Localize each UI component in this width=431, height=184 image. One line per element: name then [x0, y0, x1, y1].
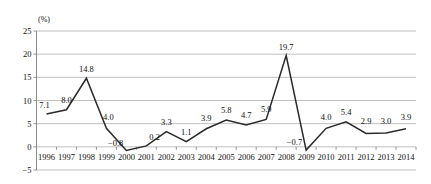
- x-tick-label: 1998: [78, 152, 95, 162]
- data-point-label: 5.4: [341, 107, 352, 117]
- x-tick-label: 1997: [58, 152, 75, 162]
- x-tick-label: 2013: [378, 152, 395, 162]
- y-axis-unit-label: (%): [38, 15, 50, 24]
- data-point-label: 5.9: [261, 104, 272, 114]
- x-tick-label: 1999: [98, 152, 115, 162]
- data-point-label: −0.7: [287, 137, 302, 147]
- data-point-label: 1.1: [181, 127, 192, 137]
- y-tick-label: 5: [27, 119, 31, 129]
- data-point-label: 4.0: [103, 112, 114, 122]
- y-tick-label: 20: [23, 49, 32, 59]
- data-point-label: 4.7: [241, 110, 252, 120]
- x-tick-label: 2009: [298, 152, 315, 162]
- x-tick-label: 2002: [158, 152, 175, 162]
- data-point-label: 8.0: [61, 95, 72, 105]
- y-tick-label: 10: [23, 96, 32, 106]
- x-tick-label: 2010: [318, 152, 335, 162]
- x-tick-label: 2006: [238, 152, 255, 162]
- data-point-label: 14.8: [79, 64, 94, 74]
- data-point-label: 4.0: [321, 112, 332, 122]
- data-point-label: 19.7: [279, 42, 294, 52]
- x-tick-label: 2001: [138, 152, 155, 162]
- data-point-label: 0.2: [149, 132, 160, 142]
- y-tick-label: 0: [27, 142, 31, 152]
- x-tick-label: 2000: [118, 152, 135, 162]
- x-axis-tick-labels: 1996199719981999200020012002200320042005…: [38, 152, 415, 162]
- line-chart: (%) 2520151050−5 19961997199819992000200…: [0, 0, 431, 184]
- x-tick-label: 2011: [338, 152, 355, 162]
- x-tick-label: 2014: [398, 152, 416, 162]
- chart-canvas: (%) 2520151050−5 19961997199819992000200…: [0, 0, 431, 184]
- data-point-label: 3.9: [401, 112, 412, 122]
- x-tick-label: 2008: [278, 152, 295, 162]
- data-point-label: 3.9: [201, 113, 212, 123]
- x-tick-label: 2007: [258, 152, 275, 162]
- data-point-label: −0.8: [108, 138, 123, 148]
- data-point-label: 2.9: [361, 116, 372, 126]
- data-point-label: 3.3: [161, 117, 172, 127]
- x-tick-label: 2012: [358, 152, 375, 162]
- y-tick-label: 15: [23, 72, 32, 82]
- y-tick-label: −5: [22, 165, 31, 175]
- data-point-label: 5.8: [221, 105, 232, 115]
- y-tick-label: 25: [23, 26, 32, 36]
- data-point-label: 7.1: [39, 100, 50, 110]
- x-tick-label: 2003: [178, 152, 195, 162]
- data-point-label: 3.0: [381, 116, 392, 126]
- x-tick-label: 2005: [218, 152, 235, 162]
- x-tick-label: 2004: [198, 152, 216, 162]
- x-tick-label: 1996: [38, 152, 55, 162]
